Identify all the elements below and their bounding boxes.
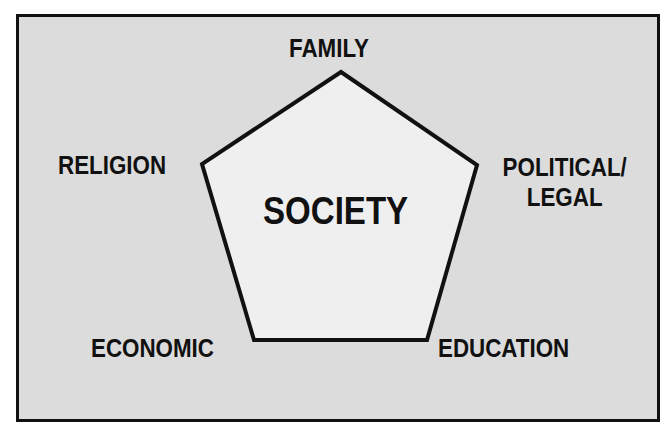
label-political: POLITICAL/ xyxy=(489,152,640,182)
label-legal: LEGAL xyxy=(489,182,640,212)
label-society: SOCIETY xyxy=(263,192,408,230)
label-family: FAMILY xyxy=(289,35,369,61)
label-economic: ECONOMIC xyxy=(91,335,214,361)
label-education: EDUCATION xyxy=(438,335,569,361)
label-political-legal: POLITICAL/ LEGAL xyxy=(489,152,640,212)
label-religion: RELIGION xyxy=(58,152,166,178)
